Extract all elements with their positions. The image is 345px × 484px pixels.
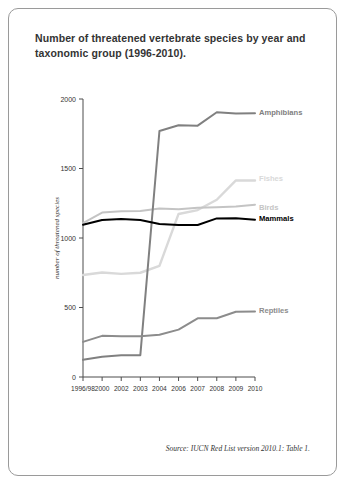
series-label-fishes: Fishes: [259, 174, 283, 183]
series-label-mammals: Mammals: [259, 214, 294, 223]
x-tick-label: 2006: [171, 385, 186, 392]
chart-plot-area: 05001000150020001996/9820002002200320042…: [35, 87, 315, 427]
screenshot-root: Number of threatened vertebrate species …: [0, 0, 345, 484]
x-tick-label: 2007: [190, 385, 205, 392]
y-tick-label: 0: [72, 374, 76, 381]
x-tick-label: 1996/98: [71, 385, 95, 392]
y-tick-label: 1000: [60, 235, 76, 242]
y-tick-label: 2000: [60, 96, 76, 103]
series-label-amphibians: Amphibians: [259, 108, 302, 117]
series-label-birds: Birds: [259, 203, 278, 212]
series-line-fishes: [83, 180, 255, 275]
series-line-mammals: [83, 218, 255, 225]
page-title: Number of threatened vertebrate species …: [35, 31, 307, 61]
series-label-reptiles: Reptiles: [259, 306, 289, 315]
chart-card: Number of threatened vertebrate species …: [8, 8, 337, 476]
series-line-reptiles: [83, 312, 255, 342]
x-tick-label: 2002: [114, 385, 129, 392]
series-line-amphibians: [83, 112, 255, 360]
x-tick-label: 2000: [95, 385, 110, 392]
source-note: Source: IUCN Red List version 2010.1: Ta…: [9, 444, 310, 453]
y-axis-title: number of threatened species: [53, 197, 61, 279]
y-tick-label: 1500: [60, 165, 76, 172]
line-chart: 05001000150020001996/9820002002200320042…: [35, 87, 315, 427]
x-tick-label: 2003: [133, 385, 148, 392]
y-tick-label: 500: [64, 304, 76, 311]
x-tick-label: 2010: [248, 385, 263, 392]
x-tick-label: 2009: [229, 385, 244, 392]
x-tick-label: 2004: [152, 385, 167, 392]
x-tick-label: 2008: [209, 385, 224, 392]
